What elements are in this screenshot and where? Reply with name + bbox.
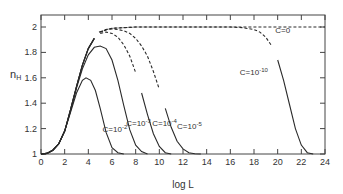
- x-tick-label: 24: [320, 157, 330, 167]
- x-tick-label: 20: [273, 157, 283, 167]
- x-tick-label: 2: [62, 157, 67, 167]
- y-axis-label: nH: [10, 68, 21, 81]
- y-tick-label: 1.4: [24, 98, 37, 108]
- series-line: [100, 29, 159, 89]
- curve-label: C=10-3: [126, 118, 151, 128]
- x-tick-label: 14: [202, 157, 212, 167]
- series-line: [100, 27, 272, 46]
- x-tick-label: 6: [109, 157, 114, 167]
- curve-label: C=10-10: [240, 67, 269, 77]
- curve-label: C=10-5: [177, 121, 202, 131]
- series-line: [99, 27, 325, 32]
- curve-label: C=0: [275, 26, 290, 35]
- x-axis-label: log L: [172, 179, 194, 190]
- curve-label: C=10-4: [152, 118, 177, 128]
- curve-labels: C=10-2C=10-3C=10-4C=10-5C=10-10C=0: [103, 26, 291, 134]
- x-tick-label: 10: [154, 157, 164, 167]
- y-tick-label: 2: [32, 22, 37, 32]
- series-line: [165, 108, 201, 154]
- x-tick-label: 22: [296, 157, 306, 167]
- y-axis-ticks: 11.21.41.61.82: [24, 22, 325, 159]
- axes-box: [41, 15, 325, 154]
- x-tick-label: 16: [225, 157, 235, 167]
- x-tick-label: 0: [38, 157, 43, 167]
- x-tick-label: 4: [86, 157, 91, 167]
- plot-frame: [41, 15, 325, 154]
- y-tick-label: 1: [32, 149, 37, 159]
- series-line: [41, 38, 94, 154]
- y-tick-label: 1.8: [24, 47, 37, 57]
- x-tick-label: 8: [133, 157, 138, 167]
- series-line: [278, 60, 314, 154]
- line-chart: 024681012141618202224 11.21.41.61.82 C=1…: [0, 0, 343, 194]
- series-line: [41, 78, 124, 154]
- x-tick-label: 12: [178, 157, 188, 167]
- curve-label: C=10-2: [103, 124, 128, 134]
- y-tick-label: 1.6: [24, 73, 37, 83]
- series-line: [100, 32, 136, 73]
- y-tick-label: 1.2: [24, 124, 37, 134]
- data-series: [41, 27, 325, 154]
- x-tick-label: 18: [249, 157, 259, 167]
